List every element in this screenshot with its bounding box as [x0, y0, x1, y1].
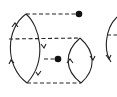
right-loop-left-arc — [68, 38, 81, 83]
arrow-down-icon — [90, 56, 95, 60]
feynman-diagram — [0, 0, 117, 97]
right-loop-right-arc — [80, 38, 92, 83]
vertex-dot-top — [76, 11, 83, 18]
vertex-dot-middle — [55, 56, 62, 63]
left-loop-left-arc — [10, 14, 27, 83]
arrow-down-icon — [41, 44, 46, 48]
arrow-down-icon — [36, 71, 41, 75]
dashed-line-middle — [9, 38, 80, 39]
left-loop-right-arc — [26, 14, 40, 83]
partial-loop-arc — [106, 17, 117, 62]
